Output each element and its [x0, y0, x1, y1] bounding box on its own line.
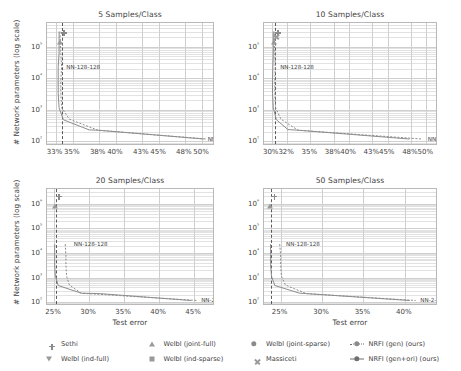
legend-label: Welbl (joint-sparse) [266, 340, 330, 348]
point-annotation: NN-128-128 [66, 64, 100, 70]
point-annotation: NN-2-2 [208, 136, 214, 142]
x-axis-tick-label: 38% [90, 148, 106, 156]
y-axis-tick-label: 10⁴ [248, 247, 259, 257]
x-axis-tick-label: 45% [150, 148, 166, 156]
y-axis-tick-label: 10⁶ [31, 198, 42, 208]
legend-item: Welbl (joint-sparse) [247, 339, 350, 349]
series-line [280, 244, 416, 300]
x-axis-tick-label: 30% [80, 308, 96, 316]
x-axis-tick-label: 48% [176, 148, 192, 156]
legend-marker-x-icon [247, 354, 261, 364]
y-axis-tick-label: 10² [31, 296, 42, 306]
data-point [57, 22, 63, 40]
y-axis-tick-label: 10⁴ [31, 247, 42, 257]
legend-marker-triangle-up-icon [145, 339, 159, 349]
x-axis-tick-label: 43% [133, 148, 149, 156]
legend-label: Welbl (ind-full) [61, 355, 109, 363]
y-axis-tick-label: 10⁴ [31, 72, 42, 82]
y-axis-tick-label: 10⁵ [31, 40, 42, 50]
series-line [55, 244, 192, 300]
x-axis-tick-label: 30% [263, 148, 279, 156]
y-axis-tick-label: 10³ [31, 272, 42, 282]
figure-legend: SethiWelbl (joint-full)Welbl (joint-spar… [42, 336, 452, 366]
legend-item: Massiceti [247, 354, 350, 364]
y-axis-tick-label: 10² [31, 135, 42, 145]
x-axis-tick-label: 32% [278, 148, 294, 156]
legend-marker-circle-icon [350, 339, 364, 349]
subplot-title: 20 Samples/Class [46, 176, 214, 185]
y-axis-tick-label: 10² [248, 296, 259, 306]
subplot-panel-5: 5 Samples/ClassNN-128-128NN-2-210²10³10⁴… [46, 22, 214, 145]
point-annotation: NN-128-128 [74, 241, 108, 247]
legend-label: Welbl (joint-full) [164, 340, 216, 348]
series-lines [47, 23, 214, 145]
legend-marker-plus-icon [42, 339, 56, 349]
figure-panel-grid: 5 Samples/ClassNN-128-128NN-2-210²10³10⁴… [0, 0, 461, 371]
y-axis-tick-label: 10³ [248, 104, 259, 114]
y-axis-label: # Network parameters (log scale) [12, 180, 21, 305]
subplot-panel-20: 20 Samples/ClassNN-128-128NN-2-210²10³10… [46, 188, 214, 305]
x-axis-label: Test error [46, 318, 214, 327]
y-axis-tick-label: 10² [248, 135, 259, 145]
subplot-title: 10 Samples/Class [263, 10, 437, 19]
x-axis-tick-label: 30% [313, 308, 329, 316]
legend-label: Sethi [61, 340, 78, 348]
legend-label: Massiceti [266, 355, 297, 363]
y-axis-tick-label: 10⁵ [248, 40, 259, 50]
legend-item: NRFI (gen) (ours) [350, 339, 453, 349]
x-axis-tick-label: 40% [396, 308, 412, 316]
x-axis-label: Test error [263, 318, 437, 327]
legend-marker-circle-icon [350, 354, 364, 364]
y-axis-tick-label: 10⁵ [31, 222, 42, 232]
series-lines [47, 189, 214, 305]
plot-area: NN-128-128NN-2-2 [46, 22, 214, 145]
point-annotation: NN-2-2 [428, 136, 437, 142]
x-axis-tick-label: 48% [402, 148, 418, 156]
subplot-title: 5 Samples/Class [46, 10, 214, 19]
legend-marker-square-icon [145, 354, 159, 364]
legend-label: Welbl (ind-sparse) [164, 355, 224, 363]
gridline-horizontal [264, 144, 436, 145]
data-point [52, 188, 58, 203]
x-axis-tick-label: 45% [185, 308, 201, 316]
x-axis-tick-label: 35% [115, 308, 131, 316]
legend-item: NRFI (gen+ori) (ours) [350, 354, 453, 364]
plot-area: NN-128-128NN-2-2 [46, 188, 214, 305]
legend-item: Sethi [42, 339, 145, 349]
x-axis-tick-label: 33% [47, 148, 63, 156]
x-axis-tick-label: 45% [379, 148, 395, 156]
series-lines [264, 23, 437, 145]
legend-item: Welbl (joint-full) [145, 339, 248, 349]
series-line [271, 244, 410, 300]
point-annotation: NN-128-128 [280, 64, 314, 70]
legend-marker-triangle-down-icon [42, 354, 56, 364]
y-axis-tick-label: 10³ [31, 104, 42, 114]
x-axis-tick-label: 50% [418, 148, 434, 156]
point-annotation: NN-2-2 [201, 297, 214, 303]
y-axis-tick-label: 10⁶ [248, 198, 259, 208]
legend-item: Welbl (ind-full) [42, 354, 145, 364]
plot-area: NN-128-128NN-2-2 [263, 22, 437, 145]
x-axis-tick-label: 50% [193, 148, 209, 156]
point-annotation: NN-2-2 [420, 297, 437, 303]
x-axis-tick-label: 40% [107, 148, 123, 156]
x-axis-tick-label: 40% [150, 308, 166, 316]
legend-marker-circle-icon [247, 339, 261, 349]
series-line [65, 244, 197, 300]
x-axis-tick-label: 35% [302, 148, 318, 156]
x-axis-tick-label: 35% [355, 308, 371, 316]
legend-label: NRFI (gen+ori) (ours) [369, 355, 440, 363]
x-axis-tick-label: 38% [325, 148, 341, 156]
gridline-horizontal [47, 144, 213, 145]
plot-area: NN-128-128NN-2-2 [263, 188, 437, 305]
y-axis-tick-label: 10⁵ [248, 222, 259, 232]
subplot-panel-10: 10 Samples/ClassNN-128-128NN-2-210²10³10… [263, 22, 437, 145]
data-point [267, 188, 273, 203]
x-axis-tick-label: 25% [272, 308, 288, 316]
series-line [273, 32, 410, 139]
legend-label: NRFI (gen) (ours) [369, 340, 426, 348]
x-axis-tick-label: 40% [340, 148, 356, 156]
y-axis-tick-label: 10³ [248, 272, 259, 282]
y-axis-label: # Network parameters (log scale) [12, 20, 21, 145]
series-line [274, 32, 422, 139]
